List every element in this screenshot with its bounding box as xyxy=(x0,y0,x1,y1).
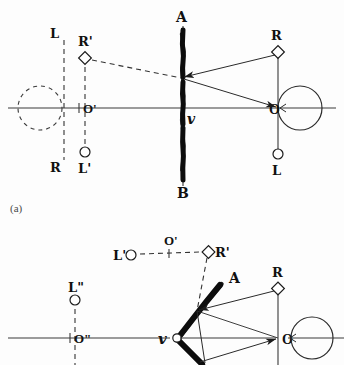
reflected-ray-a xyxy=(184,79,276,107)
virtual-row-b: L' O' R' xyxy=(113,233,230,263)
marker-R-b xyxy=(272,282,285,295)
marker-R-a xyxy=(272,46,285,59)
label-vertex-v-a: v xyxy=(187,111,196,127)
marker-R-prime-a xyxy=(79,52,92,65)
plane-mirror-a xyxy=(181,26,184,186)
label-O-double-prime-b: O" xyxy=(74,331,91,346)
label-virtual-L-top: L xyxy=(50,26,59,41)
label-O-prime-a: O' xyxy=(83,101,97,116)
panel-a-group: L R O' R' L' xyxy=(8,9,336,215)
label-R-a: R xyxy=(271,28,282,43)
ray-chord-b-2 xyxy=(197,311,278,338)
marker-L-a xyxy=(273,149,283,159)
label-R-b: R xyxy=(272,265,283,280)
label-R-prime-a: R' xyxy=(78,34,93,49)
label-R-prime-b: R' xyxy=(215,245,230,260)
label-O-prime-b: O' xyxy=(164,233,178,248)
label-vertex-v-b: v xyxy=(158,330,167,348)
label-virtual-R-bottom: R xyxy=(50,160,61,175)
ray-chord-b-1 xyxy=(197,311,205,363)
bent-mirror-b xyxy=(173,284,222,365)
virtual-ray-a xyxy=(92,60,181,78)
caption-a: (a) xyxy=(10,202,23,215)
optics-figure-svg: L R O' R' L' xyxy=(0,0,344,365)
label-L-prime-a: L' xyxy=(78,161,91,176)
label-mirror-A-b: A xyxy=(228,270,241,286)
mirror-vertex-b xyxy=(173,334,181,342)
marker-L-prime-b xyxy=(126,250,136,260)
marker-L-prime-a xyxy=(80,147,90,157)
label-L-a: L xyxy=(272,163,281,178)
label-mirror-A-a: A xyxy=(175,9,188,25)
label-L-double-prime-b: L" xyxy=(68,280,84,295)
marker-L-double-prime-b xyxy=(70,295,80,305)
figure-root: L R O' R' L' xyxy=(0,0,344,365)
label-mirror-B-a: B xyxy=(177,185,189,201)
label-O-a: O xyxy=(269,102,280,117)
panel-b-group: L' O' R' O" L" A v xyxy=(8,104,344,365)
marker-R-prime-b xyxy=(202,246,215,259)
incident-ray-a xyxy=(184,55,275,77)
label-L-prime-b: L' xyxy=(113,248,126,263)
reflected-ray-b xyxy=(200,339,276,362)
